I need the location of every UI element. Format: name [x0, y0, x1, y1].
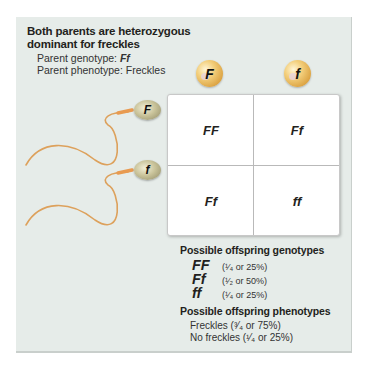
sperm-allele: F	[144, 103, 151, 117]
sperm-cell-icon: f	[134, 160, 161, 180]
sperm-cell-icon: F	[134, 100, 161, 120]
genotype-row: FF(¹⁄₄ or 25%)	[192, 257, 267, 271]
sperm-allele: f	[146, 163, 150, 177]
genotype-row: ff(¹⁄₄ or 25%)	[192, 285, 267, 299]
genotypes-heading: Possible offspring genotypes	[180, 244, 324, 256]
genotype-row: Ff(¹⁄₂ or 50%)	[192, 271, 267, 285]
punnett-cell: FF	[168, 95, 254, 165]
phenotypes-heading: Possible offspring phenotypes	[180, 305, 331, 317]
genotype-fraction: (¹⁄₄ or 25%)	[222, 290, 267, 300]
phenotype-item: Freckles (³⁄₄ or 75%)	[190, 320, 281, 331]
punnett-square: FF Ff Ff ff	[167, 94, 340, 236]
phenotype-item: No freckles (¹⁄₄ or 25%)	[190, 332, 293, 343]
genotype-symbol: ff	[192, 285, 222, 301]
punnett-cell: ff	[254, 166, 340, 236]
punnett-cell: Ff	[168, 166, 254, 236]
punnett-cell: Ff	[254, 95, 340, 165]
